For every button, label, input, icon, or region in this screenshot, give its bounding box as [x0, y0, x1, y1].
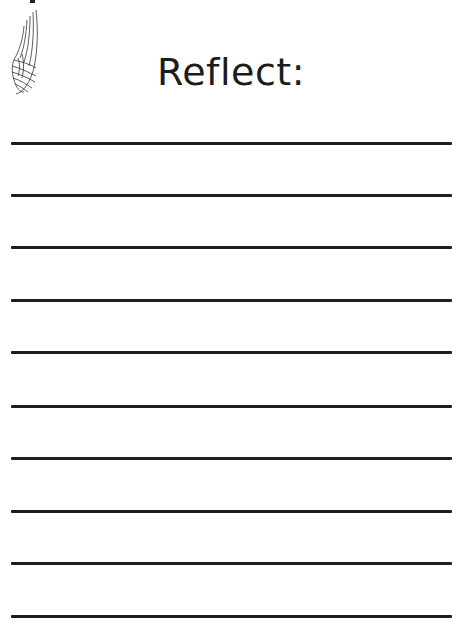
writing-line — [11, 194, 452, 197]
writing-line — [11, 562, 452, 565]
writing-line — [11, 405, 452, 408]
writing-line — [11, 246, 452, 249]
page-title: Reflect: — [0, 50, 456, 94]
writing-line — [11, 351, 452, 354]
writing-line — [11, 457, 452, 460]
corner-mark — [30, 0, 35, 3]
writing-line — [11, 299, 452, 302]
writing-line — [11, 510, 452, 513]
writing-line — [11, 142, 452, 145]
writing-line — [11, 615, 452, 618]
